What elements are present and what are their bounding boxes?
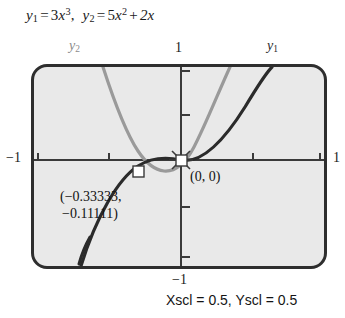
title-equals-2: = bbox=[95, 7, 108, 23]
curve-label-y2-subscript: 2 bbox=[75, 44, 80, 54]
title-comma: , bbox=[71, 7, 75, 23]
title-eq2-plus: + bbox=[127, 7, 140, 23]
scale-note: Xscl = 0.5, Yscl = 0.5 bbox=[166, 292, 297, 308]
axis-label-right: 1 bbox=[333, 150, 340, 166]
cursor-marker-intersection[interactable] bbox=[133, 166, 144, 177]
axis-label-bottom: −1 bbox=[172, 272, 187, 288]
figure-root: y1=3x3, y2=5x2+2x y2 y1 1 −1 1 −1 bbox=[0, 0, 345, 318]
curve-label-y1: y1 bbox=[267, 38, 278, 54]
graph-svg bbox=[34, 67, 324, 266]
point-label-intersection: (−0.33333, −0.11111) bbox=[60, 189, 122, 222]
axis-label-top: 1 bbox=[175, 40, 182, 56]
title-equation: y1=3x3, y2=5x2+2x bbox=[26, 6, 154, 24]
title-y1-var: y bbox=[26, 7, 33, 23]
title-eq2-coefficient: 5 bbox=[107, 7, 115, 23]
point-label-intersection-line1: (−0.33333, bbox=[60, 189, 122, 204]
axis-label-left: −1 bbox=[6, 150, 21, 166]
curve-label-y1-subscript: 1 bbox=[273, 44, 278, 54]
title-eq2-second-term: 2x bbox=[140, 7, 155, 23]
title-eq2-variable: x bbox=[115, 7, 122, 23]
title-equals-1: = bbox=[38, 7, 51, 23]
curve-label-y2: y2 bbox=[69, 38, 80, 54]
title-eq1-coefficient: 3 bbox=[51, 7, 59, 23]
point-label-intersection-line2: −0.11111) bbox=[60, 206, 122, 223]
point-label-origin: (0, 0) bbox=[190, 169, 220, 186]
title-y2-subscript: 2 bbox=[89, 13, 94, 24]
calculator-screen bbox=[31, 64, 327, 269]
curve-y2 bbox=[103, 67, 230, 171]
